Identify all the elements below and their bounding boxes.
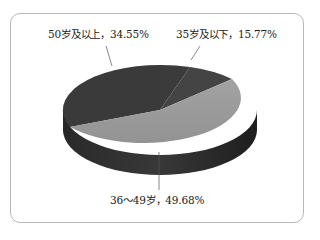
label-36-to-49: 36～49岁，49.68% xyxy=(110,192,204,207)
label-50-and-over: 50岁及以上，34.55% xyxy=(48,26,149,41)
leader-line-35-and-under xyxy=(191,46,200,60)
leader-line-50-and-over xyxy=(106,46,112,66)
label-35-and-under: 35岁及以下，15.77% xyxy=(176,26,277,41)
